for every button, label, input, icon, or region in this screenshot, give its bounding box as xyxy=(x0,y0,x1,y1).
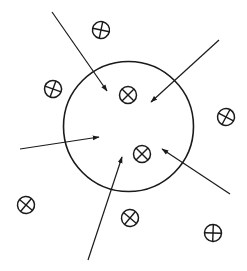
arrow-icon xyxy=(52,12,107,91)
circled-plus-icon xyxy=(215,106,238,129)
circled-plus-icon xyxy=(204,224,222,242)
arrow-icon xyxy=(88,157,122,260)
circled-x-icon xyxy=(116,83,140,107)
arrows xyxy=(20,12,230,260)
circled-plus-icon xyxy=(91,20,111,40)
particle-diagram xyxy=(0,0,247,271)
arrow-icon xyxy=(162,149,230,194)
circled-plus-icon xyxy=(42,78,64,100)
circled-x-icon xyxy=(130,142,154,166)
circled-x-icon xyxy=(14,193,38,217)
diagram-canvas xyxy=(0,0,247,271)
circled-x-icon xyxy=(118,206,142,230)
arrow-icon xyxy=(20,137,99,149)
